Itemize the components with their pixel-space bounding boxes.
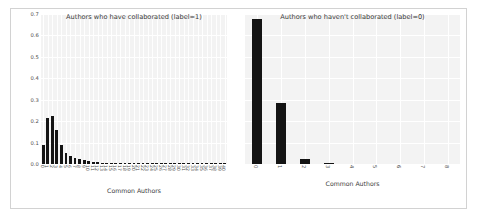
y-tick-label: 0.1 [30,140,39,146]
x-tick-label: 40 [221,165,226,171]
bars-left [41,14,227,164]
bar [46,118,49,164]
x-tick-label: 7 [420,165,426,168]
bar [42,145,45,164]
y-axis: 0.00.10.20.30.40.50.60.7 [17,14,41,164]
x-axis-left-label: Common Authors [107,187,161,194]
y-tick-label: 0.6 [30,32,39,38]
bar [65,153,68,164]
bar [69,156,72,164]
bar [51,116,54,164]
y-tick-label: 0.4 [30,75,39,81]
subplot-right [245,14,460,164]
bar [60,145,63,164]
x-tick-label: 8 [444,165,450,168]
y-tick-label: 0.5 [30,54,39,60]
subplot-left [41,14,227,164]
x-axis-right-label: Common Authors [326,180,380,187]
x-tick-label: 2 [301,165,307,168]
subplot-right-title: Authors who haven't collaborated (label=… [280,13,424,21]
y-tick-label: 0.7 [30,11,39,17]
bar [252,19,262,164]
x-tick-label: 5 [372,165,378,168]
x-tick-label: 0 [253,165,259,168]
bar [55,130,58,164]
x-tick-label: 3 [325,165,331,168]
x-tick-label: 1 [277,165,283,168]
bar [276,103,286,164]
figure: 0.00.10.20.30.40.50.60.7 Authors who hav… [17,14,460,204]
bars-right [245,14,460,164]
y-tick-label: 0.2 [30,118,39,124]
y-tick-label: 0.3 [30,97,39,103]
subplot-left-title: Authors who have collaborated (label=1) [66,13,202,21]
figure-frame: 0.00.10.20.30.40.50.60.7 Authors who hav… [10,8,467,209]
chart-page: 0.00.10.20.30.40.50.60.7 Authors who hav… [0,0,477,219]
x-tick-label: 4 [349,165,355,168]
y-tick-label: 0.0 [30,161,39,167]
x-tick-label: 6 [396,165,402,168]
